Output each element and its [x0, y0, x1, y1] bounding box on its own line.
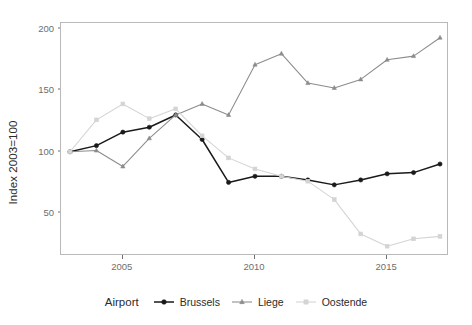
legend-item-oostende[interactable]: Oostende	[295, 296, 368, 308]
x-tick-label: 2005	[111, 261, 132, 272]
data-point	[200, 137, 204, 141]
data-point	[147, 125, 151, 129]
data-point	[385, 172, 389, 176]
x-tick-label: 2015	[376, 261, 397, 272]
data-point	[280, 174, 284, 178]
plot-area	[61, 23, 449, 256]
data-point	[438, 234, 442, 238]
data-point	[385, 244, 389, 248]
y-tick-label: 100	[14, 145, 54, 156]
legend-key-liege-icon	[231, 296, 253, 308]
data-point	[279, 51, 283, 55]
y-axis-ticks: 50100150200	[6, 22, 54, 255]
legend-label-oostende: Oostende	[322, 296, 368, 308]
line-chart: Index 2003=100 50100150200 200520102015 …	[0, 0, 472, 325]
data-point	[332, 183, 336, 187]
data-point	[253, 174, 257, 178]
legend-key-brussels-icon	[153, 296, 175, 308]
data-point	[147, 117, 151, 121]
series-liege	[68, 35, 442, 168]
data-point	[306, 179, 310, 183]
data-point	[121, 130, 125, 134]
legend: Airport Brussels Liege Oostende	[0, 290, 472, 314]
data-point	[359, 232, 363, 236]
series-brussels	[68, 113, 442, 187]
legend-label-brussels: Brussels	[180, 296, 220, 308]
data-point	[68, 150, 72, 154]
data-point	[200, 134, 204, 138]
data-point	[332, 198, 336, 202]
legend-label-liege: Liege	[258, 296, 284, 308]
plot-panel	[60, 22, 448, 255]
x-tick-label: 2010	[243, 261, 264, 272]
x-tick-mark	[254, 255, 255, 259]
data-point	[200, 102, 204, 106]
x-axis-ticks: 200520102015	[60, 255, 448, 275]
data-point	[94, 144, 98, 148]
data-point	[227, 156, 231, 160]
y-tick-label: 50	[14, 207, 54, 218]
legend-item-brussels[interactable]: Brussels	[153, 296, 220, 308]
x-tick-mark	[386, 255, 387, 259]
data-point	[438, 35, 442, 39]
data-point	[95, 118, 99, 122]
data-point	[253, 167, 257, 171]
legend-item-liege[interactable]: Liege	[231, 296, 284, 308]
x-tick-mark	[122, 255, 123, 259]
data-point	[174, 107, 178, 111]
series-line	[70, 38, 440, 167]
y-tick-label: 200	[14, 23, 54, 34]
data-point	[226, 180, 230, 184]
data-point	[412, 237, 416, 241]
data-point	[411, 171, 415, 175]
legend-title: Airport	[105, 296, 139, 308]
legend-key-oostende-icon	[295, 296, 317, 308]
data-point	[438, 162, 442, 166]
data-point	[121, 102, 125, 106]
y-tick-label: 150	[14, 84, 54, 95]
data-point	[359, 178, 363, 182]
